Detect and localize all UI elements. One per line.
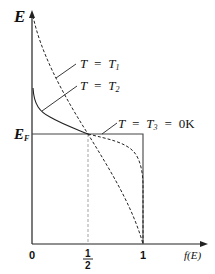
label-t1: T = T1: [80, 56, 120, 72]
tick-1: 1: [140, 249, 146, 261]
x-axis-label: f(E): [184, 249, 201, 262]
fermi-level-label: EF: [13, 126, 30, 143]
tick-0: 0: [29, 249, 35, 261]
curve-t2-left: [33, 88, 88, 134]
curve-t3-step: [32, 134, 143, 244]
leader-t1: [56, 64, 76, 78]
y-axis-label: E: [13, 7, 25, 26]
tick-half-denominator: 2: [85, 260, 91, 271]
fermi-dirac-diagram: E EF T = T1 T = T2 T = T3 = 0K 0 1 2 1 f…: [0, 0, 215, 274]
leader-t3: [102, 123, 117, 134]
label-t3: T = T3 = 0K: [118, 116, 195, 133]
curve-t2-right: [88, 134, 143, 244]
label-t2: T = T2: [80, 78, 120, 94]
tick-half-numerator: 1: [85, 248, 91, 259]
leader-t2: [42, 86, 77, 111]
